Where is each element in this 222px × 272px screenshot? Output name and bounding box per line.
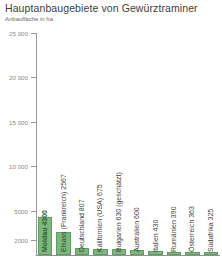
bar-label: Italien 430 (152, 220, 159, 252)
y-tick-mark (31, 33, 36, 34)
chart-container: Hauptanbaugebiete von Gewürztraminer Anb… (0, 0, 222, 272)
y-tick-label: 5000 (14, 207, 28, 214)
y-tick-label: 2000 (14, 237, 28, 244)
bar-label: Bulgarien 630 (geschätzt) (115, 172, 122, 252)
bar (167, 252, 181, 255)
y-tick-label: 15 000 (9, 118, 28, 125)
y-tick-mark (31, 77, 36, 78)
bar-label: Deutschland 807 (78, 199, 85, 252)
plot-area: 25 00020 00015 00010 00050002000 Moldau … (0, 0, 222, 272)
y-tick-label: 10 000 (9, 163, 28, 170)
y-tick-mark (31, 240, 36, 241)
bar-label: Österreich 363 (188, 206, 195, 252)
y-axis-line (36, 33, 37, 255)
y-tick-label: 25 000 (9, 30, 28, 37)
y-tick-label: 20 000 (9, 74, 28, 81)
bar (204, 252, 218, 255)
bar-label: Südafrika 325 (207, 209, 214, 252)
x-axis-line (36, 255, 220, 256)
y-tick-mark (31, 122, 36, 123)
bar-label: Rumänien 390 (170, 206, 177, 252)
bar-label: Australien 600 (133, 207, 140, 252)
y-tick-mark (31, 166, 36, 167)
bar (185, 252, 199, 255)
y-tick-mark (31, 211, 36, 212)
bar-label: Kalifornien (USA) 675 (96, 184, 103, 252)
bar-label: Moldau 4300 (41, 210, 48, 252)
bar-label: Elsass (Frankreich) 2567 (60, 174, 67, 252)
